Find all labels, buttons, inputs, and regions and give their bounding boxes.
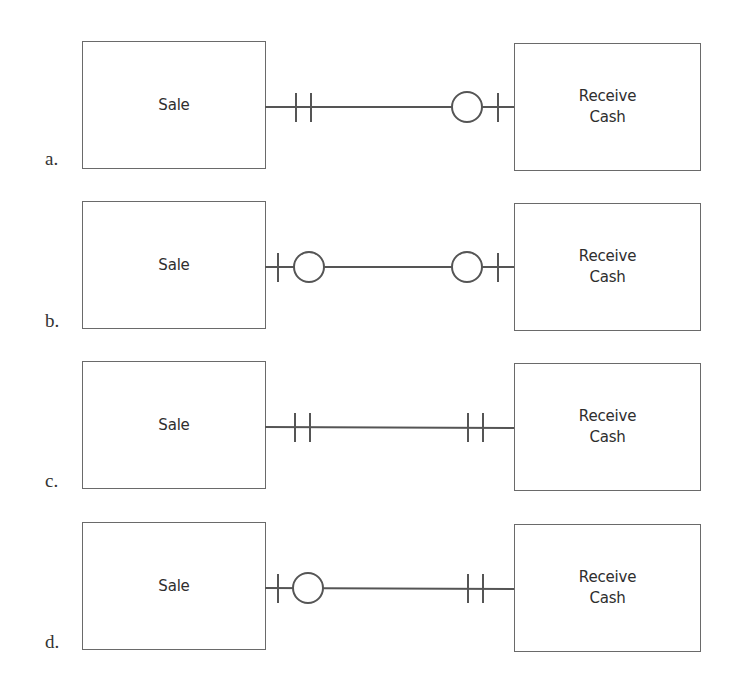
option-c: c. Sale Receive Cash (0, 320, 737, 460)
option-b: b. Sale Receive Cash (0, 160, 737, 300)
relationship-connector (0, 481, 737, 681)
option-a: a. Sale Receive Cash (0, 0, 737, 140)
option-d: d. Sale Receive Cash (0, 481, 737, 621)
